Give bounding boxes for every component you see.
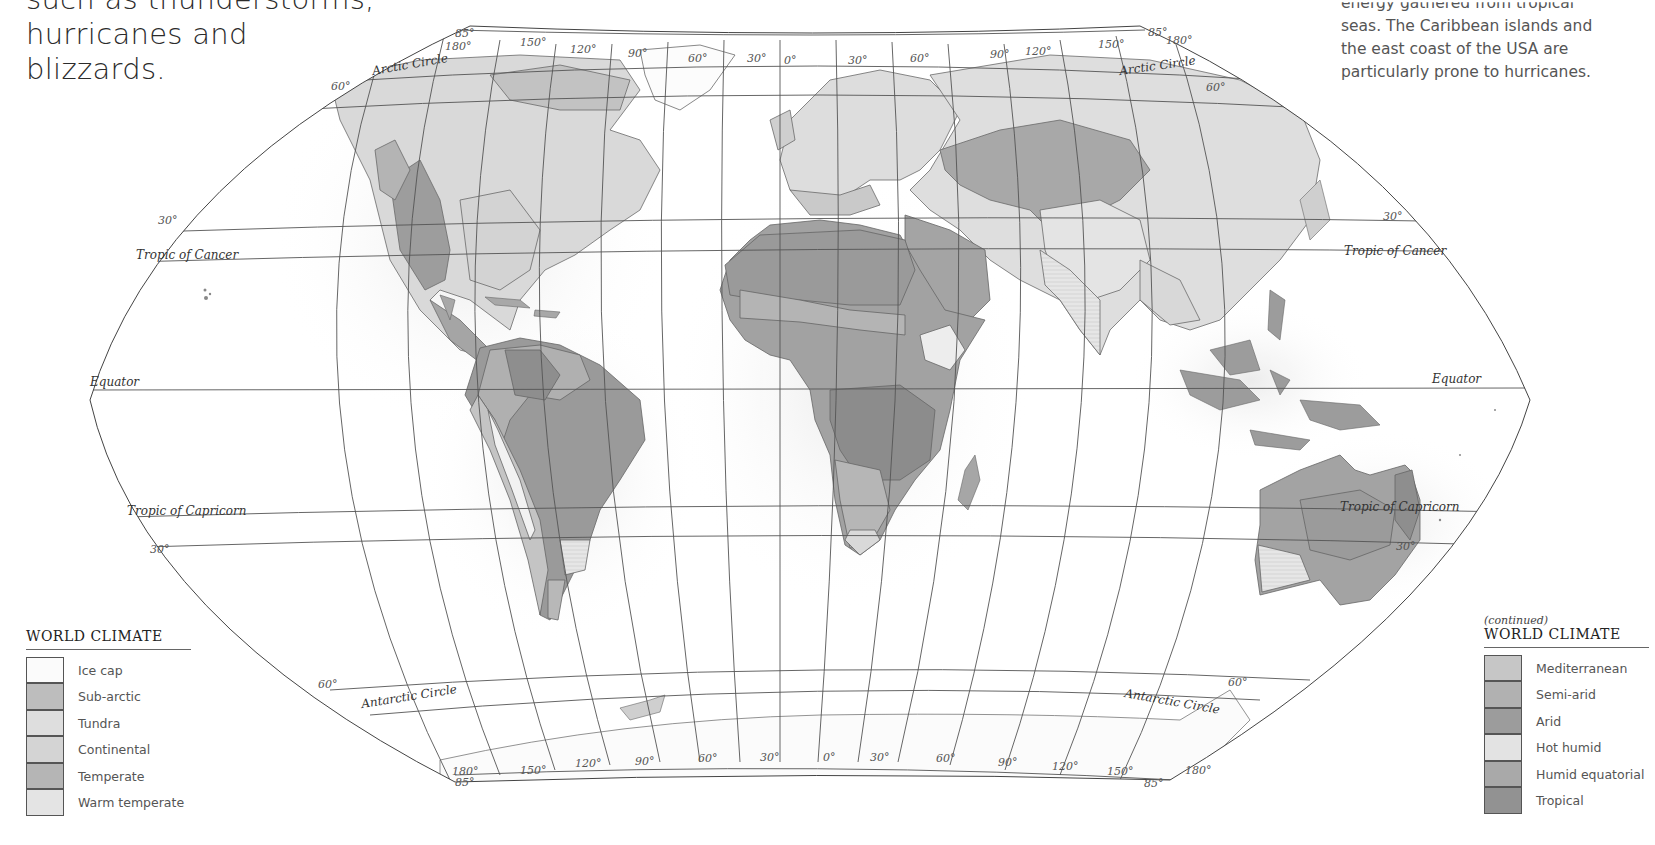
swatch-temperate (26, 763, 64, 790)
legend-label: Arid (1536, 714, 1561, 729)
legend-item-hot-humid: Hot humid (1484, 735, 1649, 762)
lon-bottom: 150° (520, 764, 547, 777)
legend-item-ice-cap: Ice cap (26, 657, 191, 684)
legend-items: Mediterranean Semi-arid Arid Hot humid H… (1484, 655, 1649, 814)
lat-30n-right: 30° (1383, 210, 1403, 223)
swatch-hot-humid (1484, 734, 1522, 761)
lon-bottom: 180° (452, 765, 479, 778)
lat-30s-left: 30° (150, 543, 170, 556)
lat-60n-left: 60° (331, 80, 351, 93)
swatch-mediterranean (1484, 655, 1522, 682)
map-body (0, 0, 1655, 845)
legend-world-climate-continued: (continued) WORLD CLIMATE Mediterranean … (1484, 614, 1649, 814)
legend-label: Mediterranean (1536, 661, 1627, 676)
lon-top: 60° (688, 52, 708, 65)
swatch-tropical (1484, 787, 1522, 814)
swatch-ice-cap (26, 657, 64, 684)
lat-85n-right: 85° (1148, 26, 1168, 39)
legend-item-warm-temperate: Warm temperate (26, 790, 191, 817)
label-equator-right: Equator (1431, 372, 1482, 386)
lon-bottom: 120° (1052, 760, 1079, 773)
swatch-semi-arid (1484, 681, 1522, 708)
lon-bottom: 60° (698, 752, 718, 765)
lon-bottom: 90° (635, 755, 655, 768)
swatch-arid (1484, 708, 1522, 735)
lon-bottom: 30° (870, 751, 890, 764)
label-tropic-cancer-left: Tropic of Cancer (136, 248, 239, 262)
legend-label: Tundra (78, 716, 120, 731)
legend-label: Humid equatorial (1536, 767, 1644, 782)
lat-85s-right: 85° (1144, 777, 1164, 790)
lon-bottom: 0° (823, 751, 836, 764)
legend-item-arid: Arid (1484, 708, 1649, 735)
lon-bottom: 150° (1107, 765, 1134, 778)
world-climate-map: Arctic Circle Arctic Circle Tropic of Ca… (0, 0, 1655, 845)
legend-label: Ice cap (78, 663, 123, 678)
lon-top: 180° (1166, 34, 1193, 47)
legend-title: WORLD CLIMATE (1484, 626, 1649, 648)
legend-world-climate: WORLD CLIMATE Ice cap Sub-arctic Tundra … (26, 628, 191, 816)
lon-top: 60° (910, 52, 930, 65)
legend-item-continental: Continental (26, 737, 191, 764)
lon-bottom: 90° (998, 756, 1018, 769)
lon-bottom: 60° (936, 752, 956, 765)
lon-bottom: 30° (760, 751, 780, 764)
legend-continued-note: (continued) (1484, 614, 1649, 626)
lat-30s-right: 30° (1396, 540, 1416, 553)
lon-top: 30° (848, 54, 868, 67)
lon-top: 90° (628, 47, 648, 60)
swatch-warm-temperate (26, 789, 64, 816)
lon-top: 150° (1098, 38, 1125, 51)
lon-top: 120° (1025, 45, 1052, 58)
swatch-sub-arctic (26, 683, 64, 710)
lat-60n-right: 60° (1206, 81, 1226, 94)
legend-label: Tropical (1536, 793, 1584, 808)
swatch-humid-equatorial (1484, 761, 1522, 788)
legend-label: Warm temperate (78, 795, 184, 810)
legend-items: Ice cap Sub-arctic Tundra Continental Te… (26, 657, 191, 816)
legend-label: Semi-arid (1536, 687, 1596, 702)
legend-item-humid-equatorial: Humid equatorial (1484, 761, 1649, 788)
lon-top: 30° (747, 52, 767, 65)
legend-item-tropical: Tropical (1484, 788, 1649, 815)
legend-label: Sub-arctic (78, 689, 141, 704)
legend-label: Temperate (78, 769, 144, 784)
legend-item-mediterranean: Mediterranean (1484, 655, 1649, 682)
legend-label: Hot humid (1536, 740, 1601, 755)
new-zealand (1400, 605, 1445, 640)
label-tropic-capricorn-left: Tropic of Capricorn (127, 504, 247, 518)
swatch-tundra (26, 710, 64, 737)
legend-item-temperate: Temperate (26, 763, 191, 790)
label-tropic-cancer-right: Tropic of Cancer (1344, 244, 1447, 258)
lon-top: 90° (990, 48, 1010, 61)
lon-top: 120° (570, 43, 597, 56)
lat-85n-left: 85° (455, 27, 475, 40)
label-tropic-capricorn-right: Tropic of Capricorn (1340, 500, 1460, 514)
swatch-continental (26, 736, 64, 763)
legend-item-tundra: Tundra (26, 710, 191, 737)
legend-item-semi-arid: Semi-arid (1484, 682, 1649, 709)
lat-60s-left: 60° (318, 678, 338, 691)
lat-60s-right: 60° (1228, 676, 1248, 689)
legend-title: WORLD CLIMATE (26, 628, 191, 650)
lon-bottom: 120° (575, 757, 602, 770)
lon-top: 0° (784, 54, 797, 67)
lon-top: 180° (445, 40, 472, 53)
lon-top: 150° (520, 36, 547, 49)
label-equator-left: Equator (89, 375, 140, 389)
lon-bottom: 180° (1185, 764, 1212, 777)
legend-label: Continental (78, 742, 150, 757)
lat-30n-left: 30° (158, 214, 178, 227)
legend-item-sub-arctic: Sub-arctic (26, 684, 191, 711)
